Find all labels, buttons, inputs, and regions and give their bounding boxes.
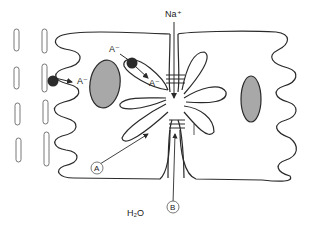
anion-arrow-apical-in xyxy=(120,54,130,61)
left-cell-membrane xyxy=(54,32,170,179)
cell-diagram: Na⁺ A⁻ A⁻ A⁻ A B H₂O xyxy=(0,0,312,230)
anion-arrow-apical-out xyxy=(135,66,148,78)
label-marker-a: A xyxy=(94,164,100,173)
label-anion-basal: A⁻ xyxy=(77,76,88,86)
label-marker-b: B xyxy=(170,203,175,212)
anion-transporter-basal xyxy=(48,76,59,87)
label-na: Na⁺ xyxy=(165,9,182,19)
pointer-b xyxy=(173,134,175,204)
label-anion-apical-out: A⁻ xyxy=(149,78,160,88)
label-anion-apical-in: A⁻ xyxy=(109,44,120,54)
label-water: H₂O xyxy=(127,208,144,218)
pointer-a xyxy=(100,134,148,164)
left-cells xyxy=(14,29,49,166)
nucleus-left xyxy=(87,58,123,110)
nucleus-right xyxy=(241,76,261,122)
right-cell-membrane xyxy=(178,31,296,181)
membrane-folds xyxy=(120,52,226,178)
